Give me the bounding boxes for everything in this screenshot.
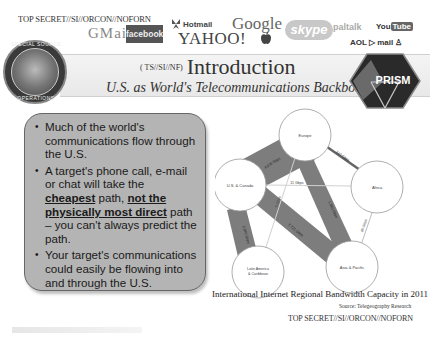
hotmail-logo: Hotmail (183, 20, 212, 29)
link-label: 45 Gbps (360, 218, 368, 232)
node-label: U.S. & Canada (227, 183, 254, 188)
node-label: Asia & Pacific (340, 265, 364, 270)
title-classification: ( TS//SI//NF) (140, 63, 183, 72)
bandwidth-diagram: Europe U.S. & Canada Africa Latin Americ… (215, 100, 433, 300)
skype-logo: skype (285, 20, 333, 40)
title-text: Introduction (187, 54, 296, 79)
node-label: Europe (299, 133, 313, 138)
key-points-box: Much of the world's communications flow … (24, 113, 206, 291)
link-label: 11 Gbps (290, 181, 304, 185)
aol-mail-logo: AOL ▷ mail ♙ (350, 38, 402, 47)
bullet-item: Much of the world's communications flow … (45, 120, 197, 161)
page-subtitle: U.S. as World's Telecommunications Backb… (106, 80, 369, 96)
page-title: ( TS//SI//NF) Introduction (140, 54, 296, 80)
youtube-tube-text: Tube (391, 22, 414, 31)
link-us-africa (265, 185, 351, 186)
bullet-text: path, (95, 191, 127, 204)
bullet-item: Your target's communications could easil… (45, 248, 197, 289)
youtube-you-text: You (376, 22, 391, 31)
node-label: Africa (372, 185, 383, 190)
apple-icon (260, 31, 272, 45)
facebook-logo: facebook (126, 25, 163, 43)
node-asia-pacific: Asia & Pacific (326, 241, 378, 293)
diagram-caption: International Internet Regional Bandwidt… (212, 289, 428, 299)
bullet-text: A target's phone call, e-mail or chat wi… (45, 164, 187, 191)
bullet-text: Much of the world's communications flow … (45, 120, 195, 160)
bullet-text: Your target's communications could easil… (45, 248, 196, 288)
node-label: & Caribbean (248, 272, 268, 276)
classification-banner-top: TOP SECRET//SI//ORCON//NOFORN (18, 14, 151, 24)
paltalk-logo: paltalk (333, 22, 362, 32)
youtube-logo: YouTube (376, 22, 413, 31)
seal-eagle-emblem (11, 48, 59, 96)
classification-banner-bottom: TOP SECRET//SI//ORCON//NOFORN (288, 314, 413, 323)
faint-footer-text (12, 327, 142, 333)
node-label: Latin America (247, 267, 269, 271)
node-europe: Europe (279, 109, 331, 161)
node-us-canada: U.S. & Canada (215, 159, 266, 211)
prism-label: PRISM (376, 74, 411, 86)
seal-top-text: SPECIAL SOURCE (10, 41, 62, 47)
bullet-emphasis: cheapest (45, 191, 95, 204)
diagram-source: Source: Telegeography Research (339, 303, 411, 309)
seal-bottom-text: OPERATIONS (10, 95, 62, 101)
node-africa: Africa (351, 161, 403, 213)
bullet-item: A target's phone call, e-mail or chat wi… (45, 164, 197, 246)
link-label: 343 Gbps (335, 150, 350, 162)
google-logo: Google (232, 14, 282, 34)
